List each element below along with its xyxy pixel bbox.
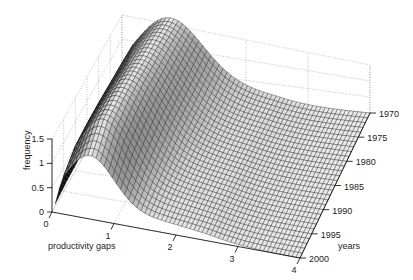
- x-tick-label: 2: [167, 242, 172, 252]
- x-tick: [235, 247, 238, 253]
- x-tick: [49, 212, 52, 218]
- x-tick-label: 4: [291, 265, 296, 275]
- x-axis-label: productivity gaps: [48, 241, 116, 251]
- z-axis-label: frequency: [22, 130, 32, 170]
- x-tick: [111, 224, 114, 230]
- y-tick-label: 1970: [379, 109, 399, 119]
- x-tick-label: 3: [229, 254, 234, 264]
- surface-mesh: [55, 18, 370, 258]
- surface-plot: 00.511.501234197019751980198519901995200…: [0, 0, 413, 280]
- z-tick-label: 0.5: [31, 183, 44, 193]
- x-tick: [297, 258, 300, 264]
- x-tick: [173, 235, 176, 241]
- y-tick-label: 1995: [321, 230, 341, 240]
- x-tick-label: 0: [43, 219, 48, 229]
- y-tick-label: 1985: [344, 182, 364, 192]
- z-tick-label: 0: [39, 207, 44, 217]
- y-axis-label: years: [338, 241, 361, 251]
- y-tick-label: 1990: [332, 206, 352, 216]
- y-tick-label: 1980: [356, 157, 376, 167]
- y-tick-label: 1975: [367, 133, 387, 143]
- z-tick-label: 1.5: [31, 134, 44, 144]
- x-tick-label: 1: [105, 231, 110, 241]
- y-tick-label: 2000: [309, 254, 329, 264]
- z-tick-label: 1: [39, 158, 44, 168]
